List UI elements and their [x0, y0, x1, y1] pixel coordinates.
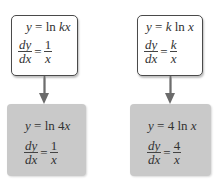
variable-y: y [26, 19, 32, 34]
arrow-head-icon [165, 93, 175, 104]
numerator-1: 1 [44, 38, 53, 51]
derivative-dy-dx-1-over-x: dy dx = 1 x [18, 38, 52, 65]
derivative-dy-dx-1-over-x: dy dx = 1 x [24, 139, 58, 166]
equals-sign: = [34, 44, 41, 60]
ln-function: ln [46, 19, 56, 34]
coefficient-k: k [166, 19, 172, 34]
example-box-ln-4x: y = ln 4x dy dx = 1 x [7, 104, 86, 176]
numerator-1: 1 [50, 139, 59, 152]
equals-sign: = [160, 44, 167, 60]
numerator-dy: dy [24, 139, 38, 152]
equation-y-4-ln-x: y = 4 ln x [148, 119, 197, 133]
example-box-4-ln-x: y = 4 ln x dy dx = 4 x [130, 104, 211, 176]
derivative-dy-dx-4-over-x: dy dx = 4 x [147, 139, 181, 166]
denominator-dx: dx [24, 152, 38, 166]
equation-y-k-ln-x: y = k ln x [146, 20, 194, 34]
numerator-dy: dy [144, 38, 158, 51]
denominator-dx: dx [18, 51, 32, 65]
numerator-dy: dy [18, 38, 32, 51]
equals-sign: = [40, 145, 47, 161]
denominator-x: x [44, 51, 52, 65]
result-fraction: 4 x [173, 139, 182, 166]
result-fraction: 1 x [50, 139, 59, 166]
numerator-4: 4 [173, 139, 182, 152]
general-formula-box-ln-kx: y = ln kx dy dx = 1 x [11, 15, 78, 76]
equation-y-ln-4x: y = ln 4x [25, 119, 70, 133]
derivative-dy-dx-k-over-x: dy dx = k x [144, 38, 177, 65]
argument-kx: kx [59, 19, 71, 34]
ln-function: ln [177, 118, 187, 133]
denominator-dx: dx [144, 51, 158, 65]
denominator-x: x [170, 51, 178, 65]
ln-function: ln [45, 118, 55, 133]
equals-sign: = [155, 19, 162, 34]
result-fraction: k x [170, 38, 178, 65]
variable-y: y [146, 19, 152, 34]
dy-dx-fraction: dy dx [18, 38, 32, 65]
equals-sign: = [34, 118, 41, 133]
coefficient-4: 4 [168, 118, 175, 133]
denominator-dx: dx [147, 152, 161, 166]
dy-dx-fraction: dy dx [24, 139, 38, 166]
variable-y: y [148, 118, 154, 133]
numerator-dy: dy [147, 139, 161, 152]
equals-sign: = [157, 118, 164, 133]
equals-sign: = [35, 19, 42, 34]
variable-y: y [25, 118, 31, 133]
general-formula-box-k-ln-x: y = k ln x dy dx = k x [137, 15, 203, 76]
argument-x: x [191, 118, 197, 133]
denominator-x: x [50, 152, 58, 166]
arrow-head-icon [39, 93, 49, 104]
numerator-k: k [170, 38, 178, 51]
ln-function: ln [175, 19, 185, 34]
denominator-x: x [173, 152, 181, 166]
result-fraction: 1 x [44, 38, 53, 65]
equation-y-ln-kx: y = ln kx [26, 20, 71, 34]
argument-x: x [188, 19, 194, 34]
equals-sign: = [163, 145, 170, 161]
argument-x: x [65, 118, 71, 133]
dy-dx-fraction: dy dx [144, 38, 158, 65]
dy-dx-fraction: dy dx [147, 139, 161, 166]
